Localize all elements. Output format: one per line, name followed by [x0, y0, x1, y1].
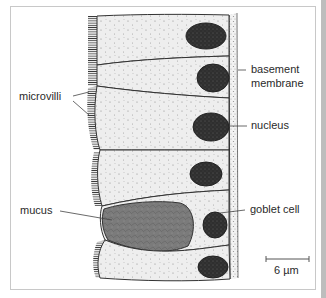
label-nucleus: nucleus — [251, 119, 289, 132]
nucleus — [197, 64, 229, 92]
label-microvilli: microvilli — [19, 90, 61, 103]
microvilli-border — [88, 65, 97, 86]
scale-bar — [266, 256, 309, 262]
epithelium-diagram — [0, 0, 326, 298]
basement-membrane — [229, 13, 238, 279]
label-goblet-cell: goblet cell — [250, 203, 300, 216]
nucleus — [190, 162, 222, 186]
label-mucus: mucus — [20, 204, 52, 217]
microvilli-leader-1 — [73, 92, 89, 96]
nucleus — [193, 113, 229, 141]
microvilli-border — [88, 16, 97, 65]
nucleus — [198, 256, 228, 278]
microvilli-leader-2 — [73, 101, 89, 115]
nucleus — [186, 23, 226, 49]
scale-bar-label: 6 µm — [274, 264, 299, 277]
label-basement-membrane-line1: basement — [251, 63, 299, 76]
label-basement-membrane-line2: membrane — [251, 77, 304, 90]
nucleus — [203, 212, 227, 238]
